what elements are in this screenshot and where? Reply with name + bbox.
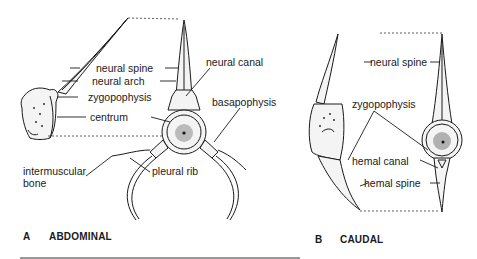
label-neural-arch: neural arch [92,75,145,87]
caption-letter-a: A [23,231,30,242]
caudal-lateral-vertebra [309,34,360,210]
label-neural-spine-a: neural spine [96,62,153,74]
label-basapophysis: basapophysis [212,96,276,108]
label-intermuscular-bone-1: intermuscular [23,165,86,177]
caption-title-b: CAUDAL [340,234,383,245]
caption-title-a: ABDOMINAL [49,231,112,242]
label-hemal-canal: hemal canal [352,155,409,167]
vertebrae-figure: neural spine neural arch zygopophysis ce… [0,0,477,259]
label-neural-canal: neural canal [206,56,263,68]
abdominal-front-vertebra [112,20,246,220]
label-pleural-rib: pleural rib [152,165,198,177]
caption-letter-b: B [315,234,322,245]
label-neural-spine-b: neural spine [370,56,427,68]
vertebrae-drawing [0,0,477,259]
label-centrum: centrum [90,111,128,123]
label-zygopophysis-b: zygopophysis [352,98,416,110]
caudal-front-vertebra [422,34,462,212]
label-hemal-spine: hemal spine [364,177,421,189]
label-zygopophysis-a: zygopophysis [88,91,152,103]
label-intermuscular-bone-2: bone [23,177,46,189]
